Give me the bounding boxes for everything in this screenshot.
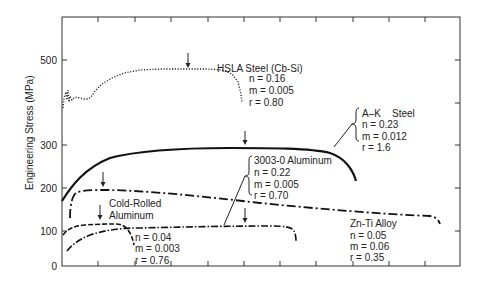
ak-uts-arrow [243, 131, 248, 145]
cold-rolled-r: r = 0.76 [135, 255, 170, 266]
al3003-r: r = 0.70 [254, 190, 289, 201]
aluminum-3003-curve [67, 226, 296, 251]
cold-rolled-aluminum-curve [63, 224, 134, 245]
zn-ti-r: r = 0.35 [350, 252, 385, 263]
y-axis-label: Engineering Stress (MPa) [24, 76, 35, 191]
hsla-m: m = 0.005 [249, 85, 294, 96]
right-ticks [455, 60, 460, 231]
al3003-brace [245, 156, 252, 195]
ak-leader-line [334, 124, 352, 147]
top-ticks [98, 17, 425, 22]
zn-ti-uts-arrow [101, 172, 106, 187]
hsla-n: n = 0.16 [249, 73, 286, 84]
left-ticks [62, 60, 67, 231]
ak-n: n = 0.23 [362, 119, 399, 130]
hsla-uts-arrow [186, 53, 191, 68]
zn-ti-n: n = 0.05 [350, 230, 387, 241]
ak-m: m = 0.012 [362, 131, 407, 142]
cold-rolled-m: m = 0.003 [135, 243, 180, 254]
hsla-steel-curve [63, 69, 242, 108]
y-tick-100: 100 [40, 226, 57, 237]
al3003-m: m = 0.005 [254, 179, 299, 190]
y-tick-200: 200 [40, 183, 57, 194]
zn-ti-title: Zn-Ti Alloy [350, 218, 397, 229]
y-tick-0: 0 [51, 261, 57, 272]
hsla-r: r = 0.80 [249, 97, 284, 108]
aluminum-3003-uts-arrow [243, 208, 248, 223]
cold-rolled-title-1: Cold-Rolled [109, 198, 161, 209]
ak-r: r = 1.6 [362, 142, 391, 153]
cold-rolled-uts-arrow [98, 205, 103, 220]
ak-brace [352, 108, 359, 141]
cold-rolled-title-2: Aluminum [109, 210, 153, 221]
cold-rolled-n: n = 0.04 [135, 232, 172, 243]
ak-title: A–K [362, 108, 381, 119]
y-tick-500: 500 [40, 55, 57, 66]
ak-title-steel: Steel [392, 108, 415, 119]
y-tick-300: 300 [40, 140, 57, 151]
stress-strain-chart: 500 300 200 100 0 Engineering Stress (MP… [0, 0, 483, 294]
al3003-title: 3003-0 Aluminum [254, 155, 332, 166]
zn-ti-m: m = 0.06 [350, 241, 390, 252]
al3003-n: n = 0.22 [254, 167, 291, 178]
